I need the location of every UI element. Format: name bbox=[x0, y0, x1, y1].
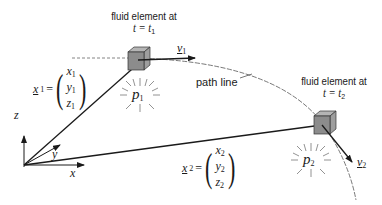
velocity-vector-2 bbox=[322, 125, 352, 162]
velocity1-label: v1 bbox=[177, 41, 186, 56]
path-line-label: path line bbox=[196, 76, 238, 88]
element2-caption: fluid element at t = t2 bbox=[292, 75, 376, 103]
pressure2-label: p2 bbox=[303, 151, 315, 168]
element2-time-equation: t = t2 bbox=[292, 87, 376, 103]
element1-caption: fluid element at t = t1 bbox=[105, 10, 182, 38]
axis-z-label: z bbox=[14, 108, 19, 123]
axis-y-label: y bbox=[52, 147, 57, 162]
axis-x-label: x bbox=[70, 166, 75, 181]
position-vector-2 bbox=[24, 125, 322, 165]
fluid-element-cube-2 bbox=[314, 111, 336, 134]
velocity2-label: v2 bbox=[357, 155, 366, 170]
fluid-element-cube-1 bbox=[128, 47, 150, 70]
position-vector-1-matrix: x1= ( x1 y1 z1 ) bbox=[33, 65, 89, 113]
element1-time-equation: t = t1 bbox=[105, 22, 182, 38]
pressure1-label: p1 bbox=[132, 86, 144, 103]
position-vector-2-matrix: x2= ( x2 y2 z2 ) bbox=[182, 144, 238, 192]
